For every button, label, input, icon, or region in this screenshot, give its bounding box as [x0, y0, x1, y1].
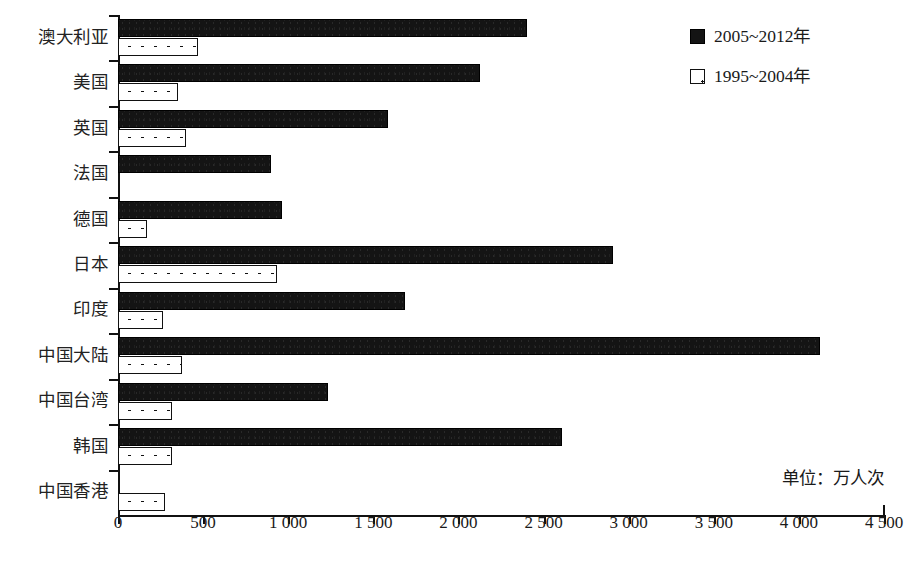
bar-1-0: [118, 64, 480, 82]
category-label-7: 中国大陆: [0, 347, 108, 365]
category-label-1: 美国: [0, 74, 108, 92]
x-tick-label-0: 0: [114, 514, 123, 531]
bar-10-1: [118, 493, 165, 511]
y-tick-1: [109, 60, 118, 62]
category-label-4: 德国: [0, 211, 108, 229]
bar-8-0: [118, 383, 328, 401]
bar-4-1: [118, 220, 147, 238]
x-tick-label-6: 3 000: [610, 514, 648, 531]
y-tick-4: [109, 197, 118, 199]
bar-9-1: [118, 447, 172, 465]
y-tick-9: [109, 424, 118, 426]
legend-item-1: 1995~2004年: [690, 68, 890, 86]
bar-7-0: [118, 337, 820, 355]
legend-item-0: 2005~2012年: [690, 28, 890, 46]
legend-swatch-dotted-icon: [690, 69, 705, 84]
bar-2-1: [118, 129, 186, 147]
category-label-2: 英国: [0, 120, 108, 138]
x-tick-label-4: 2 000: [439, 514, 477, 531]
bar-5-1: [118, 265, 277, 283]
x-tick-label-3: 1 500: [354, 514, 392, 531]
y-tick-7: [109, 333, 118, 335]
bar-7-1: [118, 356, 182, 374]
category-axis-labels: 澳大利亚美国英国法国德国日本印度中国大陆中国台湾韩国中国香港: [0, 15, 108, 503]
category-label-0: 澳大利亚: [0, 29, 108, 47]
category-label-6: 印度: [0, 301, 108, 319]
bar-2-0: [118, 110, 388, 128]
y-tick-3: [109, 151, 118, 153]
bar-9-0: [118, 428, 562, 446]
legend-label-1: 1995~2004年: [714, 68, 810, 86]
legend-label-0: 2005~2012年: [714, 28, 810, 46]
category-label-3: 法国: [0, 165, 108, 183]
bar-1-1: [118, 83, 178, 101]
y-tick-5: [109, 242, 118, 244]
y-tick-10: [109, 470, 118, 472]
x-axis-tick-labels: 05001 0001 5002 0002 5003 0003 5004 0004…: [0, 514, 800, 542]
y-tick-2: [109, 106, 118, 108]
x-tick-label-8: 4 000: [780, 514, 818, 531]
legend-swatch-solid-icon: [690, 29, 705, 44]
bar-3-0: [118, 155, 271, 173]
bar-0-0: [118, 19, 527, 37]
unit-note: 单位：万人次: [782, 470, 884, 488]
y-tick-8: [109, 379, 118, 381]
category-label-5: 日本: [0, 256, 108, 274]
x-tick-label-5: 2 500: [524, 514, 562, 531]
bar-6-1: [118, 311, 163, 329]
y-tick-6: [109, 288, 118, 290]
bar-0-1: [118, 38, 198, 56]
x-tick-label-7: 3 500: [695, 514, 733, 531]
bar-6-0: [118, 292, 405, 310]
chart-legend: 2005~2012年 1995~2004年: [690, 28, 890, 107]
x-tick-label-1: 500: [190, 514, 216, 531]
horizontal-bar-chart: 澳大利亚美国英国法国德国日本印度中国大陆中国台湾韩国中国香港 05001 000…: [0, 0, 912, 576]
y-tick-0: [109, 15, 118, 17]
category-label-8: 中国台湾: [0, 392, 108, 410]
category-label-9: 韩国: [0, 438, 108, 456]
x-tick-label-9: 4 500: [865, 514, 903, 531]
bar-8-1: [118, 402, 172, 420]
bar-5-0: [118, 246, 613, 264]
category-label-10: 中国香港: [0, 483, 108, 501]
x-tick-label-2: 1 000: [269, 514, 307, 531]
bar-4-0: [118, 201, 282, 219]
